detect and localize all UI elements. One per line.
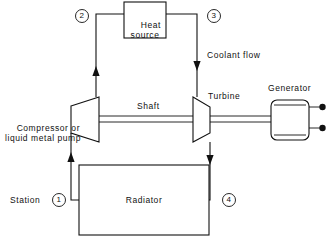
arrow-up-station2 (92, 66, 99, 76)
turbine-label: Turbine (208, 91, 240, 102)
diagram-canvas: Heat source Radiator Compressor or liqui… (0, 0, 329, 238)
turbine-shape (193, 97, 210, 142)
station-number-4: 4 (222, 195, 236, 206)
radiator-label: Radiator (79, 195, 209, 206)
station-number-2: 2 (75, 11, 89, 22)
coolant-loop-bottom (67, 133, 213, 200)
generator-label: Generator (268, 83, 311, 94)
station-number-3: 3 (207, 11, 221, 22)
pipe-heatsource-to-turbine (166, 14, 197, 97)
station-number-1: 1 (52, 195, 66, 206)
compressor-label: Compressor or liquid metal pump (5, 112, 75, 154)
coolant-flow-label: Coolant flow (207, 50, 260, 61)
arrow-down-station3 (193, 61, 200, 71)
arrow-down-station4 (206, 155, 213, 165)
heat-source-label: Heat source (124, 9, 166, 51)
generator-terminal-bottom (319, 125, 325, 131)
shaft-label: Shaft (137, 101, 160, 112)
generator-shape (271, 100, 326, 140)
station-label: Station (10, 195, 40, 206)
shaft-lines (99, 116, 271, 122)
pipe-compressor-to-heatsource (96, 14, 124, 97)
generator-terminal-top (319, 104, 325, 110)
